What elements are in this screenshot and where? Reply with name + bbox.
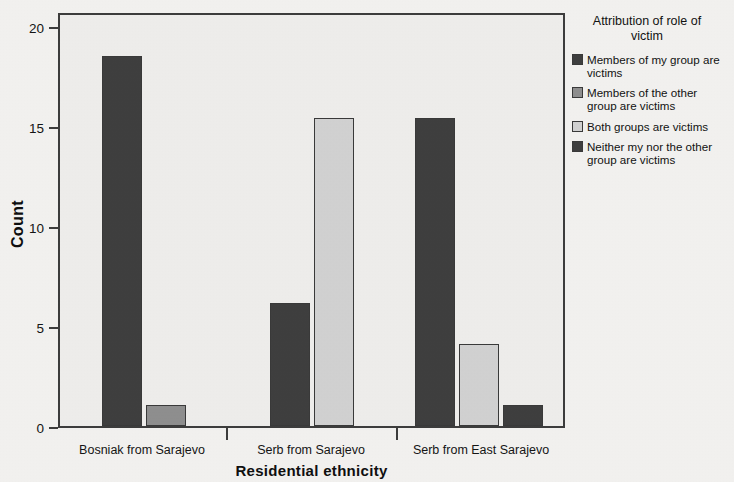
y-tick-label-10: 10 [29,221,44,236]
legend-item-label: Members of my group are victims [587,53,729,80]
bar [102,56,142,426]
x-tick-mark-1 [396,428,398,440]
x-category-label-bosniak-from-sarajevo: Bosniak from Sarajevo [79,443,205,457]
x-category-label-serb-from-sarajevo: Serb from Sarajevo [257,443,365,457]
bar [415,118,455,426]
x-axis-title: Residential ethnicity [58,462,565,479]
bar [146,405,186,426]
legend-swatch-icon [572,54,583,65]
y-tick-mark-5 [49,327,58,329]
y-tick-label-15: 15 [29,121,44,136]
legend-title-line-1: Attribution of role of [593,14,701,28]
bar [503,405,543,426]
legend-swatch-icon [572,141,583,152]
y-tick-label-20: 20 [29,21,44,36]
y-axis-title: Count [9,200,27,248]
y-tick-label-0: 0 [36,421,44,436]
bar [314,118,354,426]
legend-item[interactable]: Both groups are victims [572,120,734,133]
legend-swatch-icon [572,121,583,132]
bar-chart: 20 15 10 5 0 Count Bosniak from Sarajevo… [0,0,734,482]
legend-item-label: Both groups are victims [587,120,729,133]
legend-item[interactable]: Members of my group are victims [572,53,734,80]
legend-swatch-icon [572,87,583,98]
legend: Attribution of role of victim Members of… [572,14,734,174]
legend-item-label: Members of the other group are victims [587,86,729,113]
x-category-label-serb-from-east-sarajevo: Serb from East Sarajevo [413,443,549,457]
legend-title: Attribution of role of victim [572,14,722,44]
bar [459,344,499,426]
legend-title-line-2: victim [631,29,663,43]
x-tick-mark-0 [226,428,228,440]
bars-layer [60,15,563,426]
y-tick-mark-0 [49,427,58,429]
legend-item[interactable]: Members of the other group are victims [572,86,734,113]
plot-area [58,13,565,428]
legend-item-label: Neither my nor the other group are victi… [587,140,729,167]
y-tick-mark-10 [49,227,58,229]
bar [270,303,310,426]
legend-item[interactable]: Neither my nor the other group are victi… [572,140,734,167]
y-tick-mark-15 [49,127,58,129]
legend-items: Members of my group are victimsMembers o… [572,53,734,167]
y-tick-mark-20 [49,27,58,29]
y-tick-label-5: 5 [36,321,44,336]
